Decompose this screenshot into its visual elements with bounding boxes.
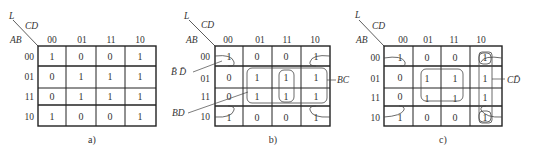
svg-text:1: 1 [255,91,260,102]
svg-text:1: 1 [314,112,319,123]
svg-text:1: 1 [79,91,84,102]
col-header: 10 [476,35,486,45]
svg-text:1: 1 [314,91,319,102]
svg-text:0: 0 [227,91,232,102]
col-header: 10 [135,35,145,45]
svg-text:0: 0 [284,51,289,62]
output-label: L [8,11,14,21]
svg-text:1: 1 [108,71,113,82]
col-header: 11 [282,35,291,45]
svg-text:1: 1 [138,111,143,122]
svg-text:1: 1 [425,93,430,104]
svg-text:1: 1 [50,51,55,62]
row-vars-label: AB [9,35,22,45]
svg-text:1: 1 [284,91,289,102]
col-header: 00 [47,35,57,45]
svg-text:1: 1 [483,73,488,84]
col-vars-label: CD [372,21,385,31]
kmap-a: L CD AB 00 01 11 10 00 01 11 10 1 0 0 1 … [8,11,156,146]
label-c-d-bar: CD̄ [507,75,520,85]
output-label: L [354,10,360,20]
svg-text:0: 0 [398,91,403,102]
svg-text:1: 1 [227,112,232,123]
svg-text:0: 0 [453,112,458,123]
svg-text:1: 1 [50,111,55,122]
row-header: 10 [371,113,381,123]
col-header: 01 [77,35,87,45]
svg-text:1: 1 [453,73,458,84]
svg-text:0: 0 [50,91,55,102]
svg-text:1: 1 [79,71,84,82]
row-vars-label: AB [355,35,368,45]
row-header: 01 [371,74,381,84]
svg-text:1: 1 [483,92,488,103]
label-b-bar-d-bar: B̄ D̄ [171,67,186,77]
row-header: 00 [201,52,211,62]
svg-text:1: 1 [138,71,143,82]
col-header: 11 [449,35,458,45]
leader-lines [188,61,336,113]
svg-text:0: 0 [255,51,260,62]
svg-text:0: 0 [284,112,289,123]
svg-text:0: 0 [108,111,113,122]
caption: b) [269,134,277,146]
row-vars-label: AB [185,35,198,45]
row-header: 01 [201,74,211,84]
col-header: 01 [255,35,265,45]
karnaugh-maps-figure: L CD AB 00 01 11 10 00 01 11 10 1 0 0 1 … [0,0,533,157]
row-header: 00 [371,53,381,63]
col-header: 00 [223,35,233,45]
row-header: 10 [25,112,35,122]
svg-text:1: 1 [138,51,143,62]
svg-text:1: 1 [255,72,260,83]
row-header: 11 [201,92,210,102]
col-vars-label: CD [25,21,38,31]
col-header: 10 [310,35,320,45]
svg-text:0: 0 [227,72,232,83]
col-header: 11 [106,35,115,45]
row-header: 11 [25,92,34,102]
kmap-c: L CD AB 00 01 11 10 00 01 11 10 1 0 0 1 … [354,10,520,146]
row-header: 10 [201,112,211,122]
output-label: L [183,11,189,21]
row-header: 01 [25,72,35,82]
svg-text:1: 1 [108,91,113,102]
svg-text:0: 0 [425,112,430,123]
label-bd: BD [172,108,185,118]
svg-text:0: 0 [398,72,403,83]
label-bc: BC [337,75,350,85]
svg-text:1: 1 [138,91,143,102]
svg-text:0: 0 [50,71,55,82]
col-header: 01 [423,35,433,45]
caption: c) [439,134,447,146]
svg-text:0: 0 [79,111,84,122]
svg-text:1: 1 [284,72,289,83]
row-header: 00 [25,52,35,62]
col-header: 00 [398,35,408,45]
svg-text:0: 0 [255,112,260,123]
svg-text:0: 0 [453,52,458,63]
svg-text:1: 1 [314,72,319,83]
svg-text:1: 1 [425,73,430,84]
col-vars-label: CD [201,20,214,30]
row-header: 11 [371,93,380,103]
kmap-b: L CD AB 00 01 11 10 00 01 11 10 1 0 0 1 … [171,11,350,146]
svg-text:1: 1 [453,93,458,104]
svg-text:0: 0 [425,52,430,63]
svg-text:0: 0 [108,51,113,62]
caption: a) [88,134,96,146]
svg-text:0: 0 [79,51,84,62]
